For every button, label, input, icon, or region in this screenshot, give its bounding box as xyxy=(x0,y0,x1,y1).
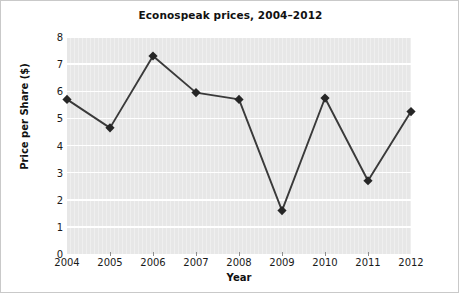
x-axis-tick-mark xyxy=(153,252,154,256)
x-axis-tick-mark xyxy=(110,252,111,256)
x-axis-tick-label: 2005 xyxy=(87,257,133,268)
y-axis-tick-labels: 012345678 xyxy=(33,37,63,254)
data-point-marker xyxy=(234,95,243,104)
x-axis-tick-label: 2010 xyxy=(302,257,348,268)
x-axis-tick-label: 2008 xyxy=(216,257,262,268)
data-point-marker xyxy=(277,206,286,215)
x-axis-tick-label: 2012 xyxy=(388,257,434,268)
y-axis-tick-label: 1 xyxy=(37,221,63,232)
data-series-line xyxy=(67,37,411,254)
series-polyline xyxy=(67,56,411,211)
data-point-marker xyxy=(320,93,329,102)
data-point-marker xyxy=(406,107,415,116)
y-axis-tick-label: 2 xyxy=(37,194,63,205)
y-axis-tick-label: 7 xyxy=(37,59,63,70)
x-axis-tick-label: 2006 xyxy=(130,257,176,268)
plot-area xyxy=(67,37,411,254)
y-axis-tick-label: 3 xyxy=(37,167,63,178)
y-axis-tick-label: 4 xyxy=(37,140,63,151)
x-axis-tick-label: 2011 xyxy=(345,257,391,268)
y-axis-tick-label: 8 xyxy=(37,32,63,43)
x-axis-label: Year xyxy=(67,272,411,283)
x-axis-tick-labels: 200420052006200720082009201020112012 xyxy=(67,257,411,273)
y-axis-label: Price per Share ($) xyxy=(19,27,30,207)
data-point-marker xyxy=(363,176,372,185)
x-axis-tick-mark xyxy=(282,252,283,256)
x-axis-tick-label: 2004 xyxy=(44,257,90,268)
chart-figure: Econospeak prices, 2004–2012 Price per S… xyxy=(0,0,459,293)
y-axis-tick-label: 5 xyxy=(37,113,63,124)
chart-title: Econospeak prices, 2004–2012 xyxy=(1,9,459,21)
y-axis-tick-label: 6 xyxy=(37,86,63,97)
x-axis-tick-mark xyxy=(239,252,240,256)
x-axis-tick-mark xyxy=(368,252,369,256)
x-axis-tick-mark xyxy=(325,252,326,256)
x-axis-tick-label: 2009 xyxy=(259,257,305,268)
x-axis-tick-mark xyxy=(196,252,197,256)
x-axis-tick-label: 2007 xyxy=(173,257,219,268)
